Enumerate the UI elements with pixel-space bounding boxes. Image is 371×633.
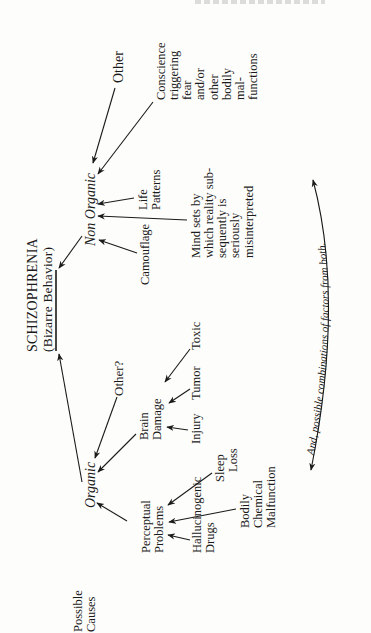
non-organic-label: Non Organic xyxy=(84,173,99,246)
injury-label: Injury xyxy=(190,413,203,444)
camouflage-label: Camouflage xyxy=(139,224,152,285)
arrow-organic-to-schizophrenia xyxy=(59,354,82,482)
brain-damage-label: Brain Damage xyxy=(138,398,164,440)
bizarre-behavior-subtitle: (Bizarre Behavior) xyxy=(41,238,55,352)
arrow-camouflage-to-nonorganic xyxy=(99,240,137,253)
other-organic-label: Other? xyxy=(112,361,126,396)
arrow-perceptual-to-organic xyxy=(97,503,127,521)
life-patterns-label: Life Patterns xyxy=(137,170,163,210)
arrow-conscience-to-nonorganic xyxy=(98,102,153,174)
arrow-nonorganic-to-schizophrenia xyxy=(59,236,82,268)
arrow-injury-to-braindamage xyxy=(167,427,188,430)
conscience-label: Conscience triggering fear and/or other … xyxy=(155,42,260,100)
toxic-label: Toxic xyxy=(190,322,203,350)
schizophrenia-title: SCHIZOPHRENIA (Bizarre Behavior) xyxy=(26,238,55,352)
combinations-text: And, possible combinations of factors fr… xyxy=(304,242,331,457)
arrow-other-to-nonorganic xyxy=(93,88,115,163)
arrow-lifepatterns-to-nonorganic xyxy=(98,198,134,204)
tumor-label: Tumor xyxy=(190,366,203,400)
hallucinogenic-drugs-label: Hallucinogenic Drugs xyxy=(191,477,217,553)
organic-label: Organic xyxy=(84,462,99,508)
other-nonorganic-label: Other xyxy=(112,51,127,83)
arrow-mindsets-to-nonorganic xyxy=(98,216,187,220)
sleep-loss-label: Sleep Loss xyxy=(214,448,240,482)
possible-causes-label: PossibleCauses xyxy=(72,590,98,632)
arrow-toxic-to-braindamage xyxy=(165,349,190,382)
arrow-other-to-organic xyxy=(95,397,117,458)
perceptual-problems-label: Perceptual Problems xyxy=(140,500,166,553)
bodily-chemical-malfunction-label: Bodily Chemical Malfunction xyxy=(239,466,278,528)
arrow-hallucinogenic-to-perceptual xyxy=(168,535,190,540)
mind-sets-label: Mind sets by which reality sub- sequentl… xyxy=(190,168,256,258)
arrow-braindamage-to-organic xyxy=(98,434,136,472)
arrow-tumor-to-braindamage xyxy=(169,389,190,403)
